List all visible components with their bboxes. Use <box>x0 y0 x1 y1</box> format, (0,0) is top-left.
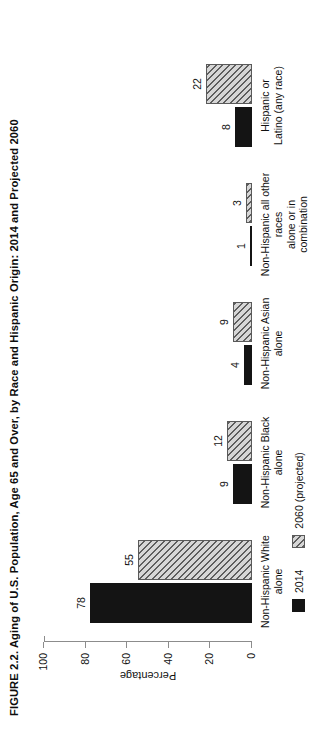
axis-label-percentage: Percentage <box>120 670 176 682</box>
bar-value-label: 12 <box>212 435 224 447</box>
bar-value-label: 78 <box>75 597 87 609</box>
category-label: Non-Hispanic Whitealone <box>259 528 285 636</box>
bar-slot: 1 <box>44 226 252 266</box>
axis-tick: 40 <box>168 642 169 648</box>
bar-slot: 9 <box>44 302 252 342</box>
bar-2060-projected-: 22 <box>206 64 252 104</box>
bar-slot: 3 <box>44 183 252 223</box>
legend-label-2014: 2014 <box>293 570 305 593</box>
screenshot-root: FIGURE 2.2. Aging of U.S. Population, Ag… <box>0 0 326 730</box>
bar-value-label: 9 <box>218 481 230 487</box>
axis-tick: 20 <box>209 642 210 648</box>
legend: 2014 2060 (projected) <box>292 452 305 612</box>
bar-slot: 55 <box>44 540 252 580</box>
value-axis-line <box>44 641 252 642</box>
bar-2060-projected-: 12 <box>227 421 252 461</box>
legend-swatch-2014 <box>292 599 305 612</box>
bar-slot: 4 <box>44 345 252 385</box>
bar-group: 7855Non-Hispanic Whitealone <box>44 522 252 641</box>
axis-tick-label: 0 <box>245 653 257 659</box>
bar-group: 912Non-Hispanic Blackalone <box>44 403 252 522</box>
category-label: Non-Hispanic Blackalone <box>259 409 285 517</box>
bar-slot: 78 <box>44 583 252 623</box>
figure-title: FIGURE 2.2. Aging of U.S. Population, Ag… <box>8 12 21 716</box>
axis-tick-label: 20 <box>203 653 215 665</box>
bar-slot: 12 <box>44 421 252 461</box>
axis-tick: 60 <box>126 642 127 648</box>
bar-slot: 22 <box>44 64 252 104</box>
axis-tick-label: 100 <box>37 653 49 671</box>
bar-2014: 8 <box>235 107 252 147</box>
bar-slot: 8 <box>44 107 252 147</box>
bar-2060-projected-: 55 <box>138 540 252 580</box>
bar-group: 13Non-Hispanic all other racesalone or i… <box>44 165 252 284</box>
bar-value-label: 8 <box>220 124 232 130</box>
figure-canvas: FIGURE 2.2. Aging of U.S. Population, Ag… <box>0 0 326 730</box>
bar-2060-projected-: 3 <box>246 183 252 223</box>
bar-group: 49Non-Hispanic Asianalone <box>44 284 252 403</box>
bar-2014: 4 <box>244 345 252 385</box>
plot-area: 020406080100 Percentage 7855Non-Hispanic… <box>44 46 252 642</box>
axis-tick: 80 <box>85 642 86 648</box>
bar-2060-projected-: 9 <box>233 302 252 342</box>
bar-group: 822Hispanic orLatino (any race) <box>44 46 252 165</box>
axis-tick-label: 60 <box>120 653 132 665</box>
axis-tick: 100 <box>43 642 44 648</box>
bar-value-label: 3 <box>231 200 243 206</box>
legend-label-2060: 2060 (projected) <box>293 452 305 528</box>
bar-value-label: 4 <box>229 362 241 368</box>
bar-2014: 1 <box>250 226 252 266</box>
axis-tick: 0 <box>251 642 252 648</box>
axis-tick-label: 80 <box>79 653 91 665</box>
bar-2014: 9 <box>233 464 252 504</box>
axis-tick-label: 40 <box>162 653 174 665</box>
bar-value-label: 22 <box>191 78 203 90</box>
category-label: Non-Hispanic all other racesalone or in … <box>259 171 310 279</box>
bar-slot: 9 <box>44 464 252 504</box>
category-label: Hispanic orLatino (any race) <box>259 52 285 160</box>
bar-groups: 7855Non-Hispanic Whitealone912Non-Hispan… <box>44 46 252 641</box>
bar-value-label: 1 <box>235 243 247 249</box>
legend-swatch-2060 <box>292 535 305 548</box>
category-label: Non-Hispanic Asianalone <box>259 290 285 398</box>
bar-value-label: 55 <box>123 554 135 566</box>
bar-2014: 78 <box>90 583 252 623</box>
bar-value-label: 9 <box>218 319 230 325</box>
legend-item-2060: 2060 (projected) <box>292 452 305 547</box>
legend-item-2014: 2014 <box>292 570 305 612</box>
